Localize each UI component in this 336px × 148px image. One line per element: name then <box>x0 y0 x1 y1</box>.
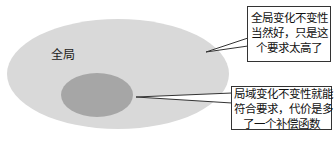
callout-local-note: 局域变化不变性就能 符合要求，代价是多 了一个补偿函数 <box>231 86 332 130</box>
callout-1-line-2: 当然好，只是这 <box>250 26 328 41</box>
callout-2-line-2: 符合要求，代价是多 <box>234 102 329 117</box>
callout-2-line-1: 局域变化不变性就能 <box>234 87 329 102</box>
global-region-label: 全局 <box>51 48 75 62</box>
callout-1-line-1: 全局变化不变性 <box>250 11 328 26</box>
callout-2-line-3: 了一个补偿函数 <box>234 117 329 132</box>
callout-1-line-3: 个要求太高了 <box>250 41 328 56</box>
local-region-ellipse <box>61 73 133 117</box>
callout-global-note: 全局变化不变性 当然好，只是这 个要求太高了 <box>247 6 331 62</box>
